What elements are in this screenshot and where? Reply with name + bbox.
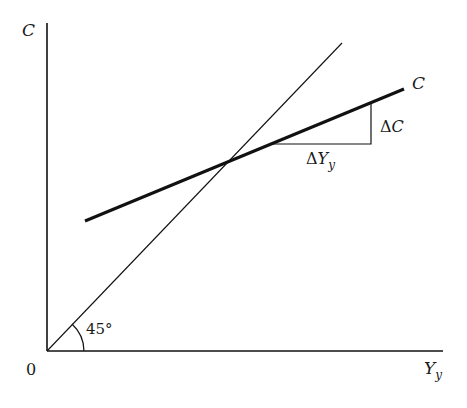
consumption-line xyxy=(85,89,404,221)
delta-c-label: ΔC xyxy=(380,117,404,136)
y-axis-label: C xyxy=(22,20,35,40)
origin-label: 0 xyxy=(26,360,36,379)
delta-yy-label: ΔYy xyxy=(306,149,335,172)
angle-label: 45° xyxy=(86,320,113,338)
x-axis-label: Yy xyxy=(424,358,442,382)
angle-arc xyxy=(72,324,84,351)
consumption-function-diagram: C 0 Yy 45° C ΔC ΔYy xyxy=(0,0,467,408)
consumption-line-label: C xyxy=(412,73,425,93)
forty-five-degree-line xyxy=(47,43,342,351)
